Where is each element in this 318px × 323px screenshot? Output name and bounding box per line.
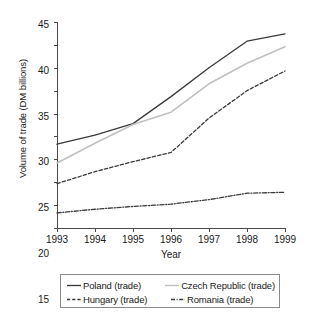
y-tick-label: 40 xyxy=(38,64,49,75)
legend-label-romania: Romania (trade) xyxy=(187,294,253,305)
line-chart-figure: Volume of trade (DM billions) 0510152025… xyxy=(0,0,318,323)
series-line-czech-republic xyxy=(57,47,285,163)
legend-label-czech-republic: Czech Republic (trade) xyxy=(181,280,275,291)
y-tick-label: 20 xyxy=(38,247,49,258)
legend-item-poland[interactable]: Poland (trade) xyxy=(67,280,165,291)
plot-area: 051015202530354045 199319941995199619971… xyxy=(57,20,285,230)
x-tick-label: 1997 xyxy=(198,234,220,245)
x-tick-label: 1998 xyxy=(236,234,258,245)
series-line-romania xyxy=(57,192,285,213)
x-tick-label: 1995 xyxy=(122,234,144,245)
chart-legend: Poland (trade) Czech Republic (trade) Hu… xyxy=(60,274,280,308)
legend-swatch-romania-icon xyxy=(171,295,185,304)
x-tick-label: 1996 xyxy=(160,234,182,245)
x-tick-label: 1994 xyxy=(84,234,106,245)
legend-swatch-poland-icon xyxy=(67,281,81,290)
x-tick-label: 1999 xyxy=(274,234,296,245)
y-tick-label: 15 xyxy=(38,293,49,304)
legend-item-hungary[interactable]: Hungary (trade) xyxy=(67,294,171,305)
y-tick-label: 30 xyxy=(38,156,49,167)
legend-item-czech-republic[interactable]: Czech Republic (trade) xyxy=(165,280,275,291)
y-tick-label: 25 xyxy=(38,202,49,213)
y-tick-label: 45 xyxy=(38,19,49,30)
x-tick-label: 1993 xyxy=(46,234,68,245)
legend-row-2: Hungary (trade) Romania (trade) xyxy=(67,292,275,306)
legend-swatch-czech-republic-icon xyxy=(165,281,179,290)
legend-item-romania[interactable]: Romania (trade) xyxy=(171,294,253,305)
series-layer xyxy=(57,20,285,230)
x-tick-mark xyxy=(285,228,286,232)
y-axis-title: Volume of trade (DM billions) xyxy=(17,24,28,214)
legend-label-poland: Poland (trade) xyxy=(83,280,141,291)
x-axis-title: Year xyxy=(57,249,285,260)
legend-label-hungary: Hungary (trade) xyxy=(83,294,147,305)
legend-swatch-hungary-icon xyxy=(67,295,81,304)
legend-row-1: Poland (trade) Czech Republic (trade) xyxy=(67,278,275,292)
y-tick-label: 35 xyxy=(38,110,49,121)
series-line-hungary xyxy=(57,71,285,184)
